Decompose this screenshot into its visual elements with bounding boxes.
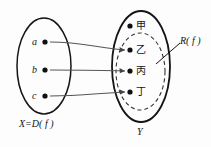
domain-ellipse — [17, 18, 71, 114]
label-element-b: b — [32, 65, 37, 75]
dot-a — [42, 39, 47, 44]
dot-yi — [127, 47, 132, 52]
label-element-bing: 丙 — [136, 66, 146, 76]
dot-c — [42, 93, 47, 98]
label-codomain-set: Y — [137, 127, 143, 137]
arrow-b-to-bing — [50, 70, 125, 71]
codomain-dots — [127, 23, 132, 94]
label-element-ding: 丁 — [136, 87, 146, 97]
dot-ding — [127, 89, 132, 94]
label-element-jia: 甲 — [136, 21, 146, 31]
dot-jia — [127, 23, 132, 28]
arrow-c-to-ding-head — [119, 89, 125, 94]
arrow-a-to-yi-head — [120, 47, 126, 52]
dot-b — [42, 67, 47, 72]
label-range-region: R( f ) — [180, 36, 201, 46]
domain-dots — [42, 39, 47, 98]
label-element-a: a — [32, 37, 37, 47]
label-element-c: c — [32, 91, 36, 101]
dot-bing — [127, 68, 132, 73]
function-mapping-diagram: a b c 甲 乙 丙 丁 X=D( f ) Y R( f ) — [0, 0, 211, 147]
arrow-c-to-ding — [50, 92, 125, 96]
label-element-yi: 乙 — [136, 45, 146, 55]
label-domain-set: X=D( f ) — [19, 119, 54, 129]
arrow-b-to-bing-head — [120, 68, 126, 73]
